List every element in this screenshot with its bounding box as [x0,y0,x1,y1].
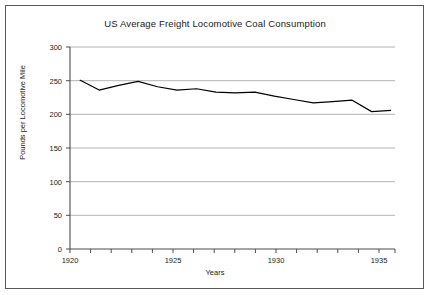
y-tick-label-300: 300 [28,43,62,52]
y-tick-label-200: 200 [28,110,62,119]
x-tick-label-1920: 1920 [50,256,90,265]
gridlines [70,47,395,215]
x-axis-ticks [70,249,395,253]
y-axis-ticks [66,47,70,249]
chart-figure: US Average Freight Locomotive Coal Consu… [0,0,430,295]
plot-area [0,0,430,295]
data-series-line [80,80,391,112]
y-tick-label-250: 250 [28,77,62,86]
x-tick-label-1925: 1925 [153,256,193,265]
x-axis-title: Years [0,268,430,277]
y-tick-label-0: 0 [28,245,62,254]
y-tick-label-150: 150 [28,144,62,153]
y-tick-label-100: 100 [28,178,62,187]
x-tick-label-1930: 1930 [256,256,296,265]
y-tick-label-50: 50 [28,211,62,220]
y-axis-title: Pounds per Locomotive Mile [18,53,27,173]
x-tick-label-1935: 1935 [359,256,399,265]
